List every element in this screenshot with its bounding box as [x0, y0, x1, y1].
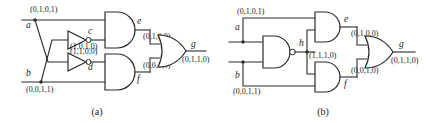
- panel-b-caption: (b): [317, 106, 329, 118]
- panel-a-node-f-label: f: [137, 74, 141, 84]
- panel-a-caption: (a): [91, 106, 102, 118]
- panel-a-input-b-label: b: [26, 68, 31, 78]
- panel-a-junction-b: [39, 80, 42, 83]
- panel-b-and-gate-e: [315, 12, 340, 42]
- panel-a-input-a-value: (0,1,0,1): [30, 5, 58, 14]
- panel-b-node-f-label: f: [344, 79, 348, 89]
- panel-a-input-b-value: (0,0,1,1): [26, 85, 54, 94]
- panel-b-node-e-label: e: [344, 14, 348, 24]
- panel-b-junction-h: [305, 50, 308, 53]
- panel-b-node-h-label: h: [299, 38, 304, 48]
- panel-a-junction-a: [33, 18, 36, 21]
- panel-b-wire-h-to-and-e: [307, 30, 315, 52]
- panel-b-nand-gate-h: [263, 36, 290, 68]
- panel-a-wire-b-cross: [41, 40, 68, 82]
- panel-b-node-h-value: (1,1,1,0): [309, 51, 337, 60]
- circuit-figure: (0,1,0,1) a b (0,0,1,1) c (1,1,0,0) d (1…: [0, 0, 429, 123]
- panel-a-input-a-label: a: [26, 20, 31, 30]
- panel-b-output-g-label: g: [399, 39, 404, 49]
- panel-a-node-d-value: (1,0,1,0): [70, 42, 98, 51]
- panel-a-output-g-value: (0,1,1,0): [182, 55, 210, 64]
- panel-b-input-b-label: b: [235, 70, 240, 80]
- panel-b-junction-a: [241, 40, 244, 43]
- panel-a-and-gate-e: [105, 12, 135, 48]
- panel-b-input-b-value: (0,0,1,1): [233, 87, 261, 96]
- panel-a-node-e-label: e: [137, 16, 141, 26]
- panel-a-and-gate-f: [105, 54, 135, 90]
- panel-a: (0,1,0,1) a b (0,0,1,1) c (1,1,0,0) d (1…: [0, 0, 215, 123]
- panel-a-output-g-label: g: [191, 39, 196, 49]
- panel-b-output-g-value: (0,1,1,0): [391, 56, 419, 65]
- panel-b: (0,1,0,1) a b (0,0,1,1) h (1,1,1,0) e (0…: [215, 0, 429, 123]
- panel-b-junction-b: [241, 60, 244, 63]
- panel-b-input-a-value: (0,1,0,1): [237, 7, 265, 16]
- panel-b-and-gate-f: [315, 62, 340, 92]
- panel-b-or-gate-g: [365, 36, 393, 68]
- panel-a-node-c-label: c: [88, 26, 93, 36]
- panel-a-node-d-label: d: [88, 62, 93, 72]
- panel-b-input-a-label: a: [235, 22, 240, 32]
